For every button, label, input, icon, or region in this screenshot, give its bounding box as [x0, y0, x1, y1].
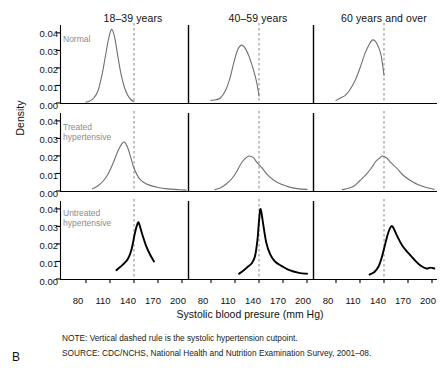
source-text: SOURCE: CDC/NCHS, National Health and Nu… — [62, 348, 371, 358]
density-curve — [211, 45, 259, 100]
density-curve — [86, 29, 134, 102]
x-axis-label: Systolic blood presure (mm Hg) — [60, 308, 440, 320]
figure-letter: B — [12, 350, 20, 364]
xtick-c2-80: 80 — [191, 295, 215, 306]
density-curve — [336, 40, 384, 101]
xtick-c1-80: 80 — [66, 295, 90, 306]
xtick-c3-170: 170 — [391, 295, 415, 306]
xtick-c3-80: 80 — [316, 295, 340, 306]
note-text: NOTE: Vertical dashed rule is the systol… — [62, 333, 298, 343]
xtick-c1-140: 140 — [116, 295, 140, 306]
xtick-c1-170: 170 — [141, 295, 165, 306]
density-curve — [370, 226, 435, 275]
density-curve — [342, 156, 434, 190]
xtick-c3-200: 200 — [416, 295, 440, 306]
xtick-c1-200: 200 — [166, 295, 190, 306]
figure-panel-b: 18–39 years 40–59 years 60 years and ove… — [0, 0, 445, 373]
xtick-c2-170: 170 — [266, 295, 290, 306]
density-curve — [239, 209, 307, 274]
xtick-c1-110: 110 — [91, 295, 115, 306]
xtick-c2-200: 200 — [291, 295, 315, 306]
xtick-c2-140: 140 — [241, 295, 265, 306]
density-curve — [215, 156, 307, 190]
xtick-c2-110: 110 — [216, 295, 240, 306]
density-curve — [92, 142, 186, 190]
xtick-c3-110: 110 — [341, 295, 365, 306]
density-curve — [116, 222, 154, 270]
xtick-c3-140: 140 — [366, 295, 390, 306]
